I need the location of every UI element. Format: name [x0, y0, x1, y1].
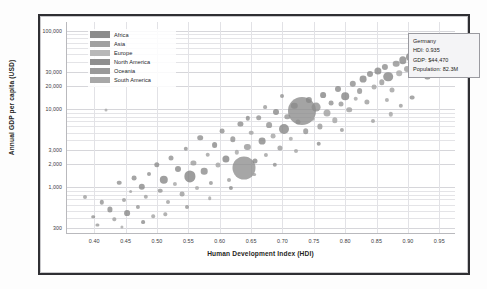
data-bubble[interactable] — [328, 100, 333, 105]
legend-item-label: Europe — [114, 50, 132, 56]
data-bubble[interactable] — [201, 168, 208, 175]
legend-item-oceania[interactable]: Oceania — [90, 66, 174, 75]
data-bubble[interactable] — [139, 183, 145, 189]
data-bubble[interactable] — [117, 180, 122, 185]
data-bubble[interactable] — [96, 223, 99, 226]
data-bubble[interactable] — [396, 70, 402, 76]
data-bubble[interactable] — [399, 104, 403, 108]
data-bubble[interactable] — [252, 159, 257, 164]
data-bubble[interactable] — [318, 124, 323, 129]
gridline-horizontal — [66, 191, 455, 192]
data-bubble[interactable] — [360, 76, 367, 83]
data-bubble[interactable] — [151, 214, 155, 218]
data-bubble[interactable] — [354, 97, 359, 102]
data-bubble[interactable] — [234, 150, 238, 154]
data-bubble[interactable] — [317, 141, 322, 146]
data-bubble[interactable] — [312, 103, 321, 112]
data-bubble[interactable] — [263, 106, 267, 110]
data-bubble[interactable] — [227, 178, 231, 182]
data-bubble[interactable] — [385, 98, 389, 102]
data-bubble[interactable] — [340, 128, 344, 132]
data-bubble[interactable] — [393, 60, 400, 67]
data-bubble[interactable] — [335, 86, 341, 92]
data-bubble[interactable] — [209, 180, 213, 184]
data-bubble[interactable] — [143, 194, 147, 198]
data-bubble[interactable] — [294, 149, 298, 153]
data-bubble[interactable] — [175, 166, 181, 172]
data-bubble[interactable] — [280, 94, 284, 98]
legend-item-label: Asia — [114, 41, 125, 47]
data-bubble[interactable] — [141, 220, 145, 224]
data-bubble[interactable] — [208, 197, 212, 201]
data-bubble[interactable] — [166, 200, 170, 204]
data-bubble[interactable] — [220, 129, 225, 134]
data-bubble[interactable] — [266, 122, 272, 128]
data-bubble[interactable] — [372, 85, 377, 90]
data-bubble[interactable] — [256, 115, 262, 121]
data-bubble[interactable] — [212, 142, 218, 148]
data-bubble[interactable] — [129, 190, 133, 194]
data-bubble[interactable] — [180, 192, 185, 197]
data-bubble[interactable] — [173, 182, 177, 186]
data-bubble[interactable] — [279, 124, 289, 134]
data-bubble[interactable] — [122, 198, 126, 202]
data-bubble[interactable] — [185, 205, 189, 209]
data-bubble[interactable] — [409, 95, 414, 100]
x-axis-tick-label: 0.45 — [120, 238, 131, 244]
data-bubble[interactable] — [273, 162, 277, 166]
data-bubble[interactable] — [230, 137, 235, 142]
data-bubble[interactable] — [310, 117, 315, 122]
data-bubble[interactable] — [341, 93, 349, 101]
data-bubble[interactable] — [367, 71, 373, 77]
data-bubble[interactable] — [244, 144, 250, 150]
data-bubble[interactable] — [83, 195, 87, 199]
data-bubble[interactable] — [229, 186, 233, 190]
data-bubble[interactable] — [379, 80, 384, 85]
data-bubble[interactable] — [390, 88, 395, 93]
data-bubble[interactable] — [371, 119, 375, 123]
data-bubble[interactable] — [320, 92, 326, 98]
gridline-vertical — [220, 22, 221, 233]
data-bubble[interactable] — [324, 109, 331, 116]
legend-item-africa[interactable]: Africa — [90, 30, 174, 39]
data-bubble[interactable] — [136, 205, 140, 209]
data-bubble[interactable] — [91, 215, 95, 219]
data-bubble[interactable] — [303, 128, 309, 134]
data-bubble[interactable] — [163, 213, 166, 216]
data-bubble[interactable] — [357, 88, 363, 94]
data-bubble[interactable] — [197, 135, 203, 141]
x-axis-tick-label: 0.55 — [183, 238, 194, 244]
data-bubble[interactable] — [113, 218, 116, 221]
data-bubble[interactable] — [195, 186, 199, 190]
legend-item-asia[interactable]: Asia — [90, 39, 174, 48]
legend-item-north-america[interactable]: North America — [90, 57, 174, 66]
data-bubble[interactable] — [365, 99, 370, 104]
data-bubble[interactable] — [206, 153, 211, 158]
data-bubble[interactable] — [131, 175, 136, 180]
data-bubble[interactable] — [263, 153, 267, 157]
data-bubble[interactable] — [374, 67, 381, 74]
data-bubble[interactable] — [184, 171, 195, 182]
data-bubble[interactable] — [222, 155, 229, 162]
data-bubble[interactable] — [249, 130, 254, 135]
data-bubble[interactable] — [271, 134, 276, 139]
data-bubble[interactable] — [216, 163, 221, 168]
data-bubble[interactable] — [158, 189, 163, 194]
data-bubble[interactable] — [154, 162, 159, 167]
y-axis-tick-label: 20,000 — [46, 83, 62, 89]
data-bubble[interactable] — [384, 72, 394, 82]
legend-item-europe[interactable]: Europe — [90, 48, 174, 57]
data-bubble[interactable] — [252, 173, 256, 177]
data-bubble[interactable] — [104, 108, 107, 111]
data-bubble[interactable] — [147, 172, 151, 176]
legend-item-south-america[interactable]: South America — [90, 75, 174, 84]
data-bubble[interactable] — [346, 107, 352, 113]
data-bubble[interactable] — [160, 175, 168, 183]
data-bubble[interactable] — [258, 138, 265, 145]
data-bubble[interactable] — [382, 63, 388, 69]
data-bubble[interactable] — [339, 102, 344, 107]
data-bubble[interactable] — [169, 155, 174, 160]
data-bubble[interactable] — [124, 210, 130, 216]
data-bubble[interactable] — [246, 116, 250, 120]
data-bubble[interactable] — [273, 109, 279, 115]
